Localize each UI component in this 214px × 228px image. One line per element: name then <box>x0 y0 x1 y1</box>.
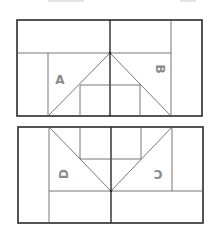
top-panel: A B <box>17 20 202 116</box>
top-edge-mark <box>48 0 84 2</box>
label-d: D <box>57 169 71 179</box>
label-c: C <box>153 167 162 181</box>
top-right-diagonal <box>110 53 171 116</box>
puzzle-diagram: A B D C <box>0 0 214 228</box>
bottom-panel: D C <box>18 127 203 223</box>
bottom-apex-dot <box>110 190 113 193</box>
top-edge-mark <box>180 0 196 2</box>
top-apex-dot <box>109 52 112 55</box>
label-a: A <box>55 73 65 87</box>
label-b: B <box>153 64 167 73</box>
